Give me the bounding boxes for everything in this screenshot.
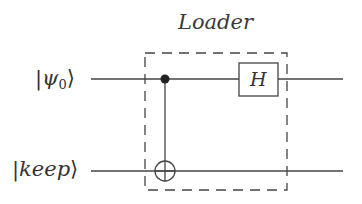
- control-dot-icon: [161, 75, 170, 84]
- hadamard-gate-label: H: [250, 68, 267, 90]
- qubit-label-psi0: |ψ0⟩: [35, 68, 75, 91]
- diagram-title: Loader: [178, 10, 253, 34]
- quantum-circuit-diagram: Loader |ψ0⟩ |keep⟩ H: [0, 0, 362, 204]
- qubit-label-keep: |keep⟩: [12, 159, 78, 180]
